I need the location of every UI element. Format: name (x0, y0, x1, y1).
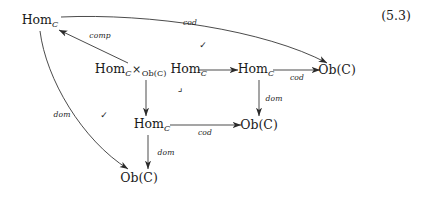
node-hom-product: HomC×Ob(C) HomC (95, 63, 207, 76)
label-hom-to-ob-cod-top: cod (290, 74, 304, 82)
label-hom-down-dom-low: dom (158, 149, 175, 157)
label-hom-to-ob-cod-low: cod (198, 129, 212, 137)
node-ob-far-right: Ob(C) (318, 64, 356, 77)
node-ob-bottom-left: Ob(C) (120, 172, 158, 185)
node-hom-mid-right-label: Hom (238, 61, 268, 76)
product-right-subscript: C (201, 68, 207, 78)
diagram-canvas: HomC HomC×Ob(C) HomC HomC Ob(C) HomC Ob(… (0, 0, 434, 197)
node-ob-far-right-label: Ob(C) (318, 62, 356, 77)
pullback-corner-marker: ⌟ (178, 83, 183, 93)
product-left-subscript: C (125, 68, 131, 78)
checkmark-lower: ✓ (100, 111, 108, 120)
node-hom-lower-center: HomC (134, 118, 171, 131)
node-hom-top-left: HomC (22, 14, 59, 27)
node-hom-mid-right: HomC (238, 63, 275, 76)
product-times-operator: × (132, 63, 142, 76)
node-hom-lower-center-label: Hom (134, 116, 164, 131)
node-ob-lower-right: Ob(C) (240, 119, 278, 132)
product-right-hom: Hom (170, 61, 200, 76)
node-hom-lower-center-subscript: C (164, 123, 170, 133)
product-left-hom: Hom (95, 61, 125, 76)
node-ob-lower-right-label: Ob(C) (240, 117, 278, 132)
label-dom-curved-left: dom (54, 111, 71, 119)
product-operator-subscript: Ob(C) (142, 68, 167, 78)
node-ob-bottom-left-label: Ob(C) (120, 170, 158, 185)
arrow-dom-curved-left (40, 31, 128, 169)
node-hom-top-left-label: Hom (22, 12, 52, 27)
checkmark-upper: ✓ (199, 41, 207, 50)
node-hom-mid-right-subscript: C (268, 68, 274, 78)
label-hom-down-dom-right: dom (266, 95, 283, 103)
equation-number: (5.3) (381, 10, 411, 23)
label-comp-diagonal: comp (89, 32, 110, 40)
node-hom-top-left-subscript: C (52, 19, 58, 29)
diagram-arrows-layer (0, 0, 434, 197)
label-cod-curved-top: cod (183, 19, 197, 27)
